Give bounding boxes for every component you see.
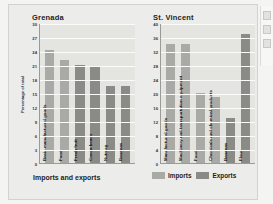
bar-category-label: Flour <box>238 150 243 161</box>
y-tick-label: 18 <box>32 78 37 83</box>
y-tick-label: 3 <box>35 148 37 153</box>
plot-area-st-vincent: 4036322824201612840 Manufactured goodsMa… <box>140 24 257 164</box>
y-tick-label: 20 <box>153 92 158 97</box>
y-tick-label: 40 <box>153 22 158 27</box>
gridline <box>40 122 135 123</box>
bar-category-label: Basic manufactured goods <box>42 105 47 161</box>
gridline <box>40 38 135 39</box>
figure-frame: Grenada Percentage of total 302724211815… <box>8 4 258 200</box>
gridline <box>161 24 255 25</box>
gridline <box>161 136 255 137</box>
y-tick-label: 9 <box>35 120 37 125</box>
y-tick-label: 28 <box>153 64 158 69</box>
y-tick-label: 4 <box>156 148 158 153</box>
gridline <box>161 66 255 67</box>
gridline <box>40 150 135 151</box>
gridline <box>161 150 255 151</box>
panel-footer-st-vincent: Imports Exports <box>140 164 257 194</box>
clipped-row <box>263 11 271 20</box>
gridline <box>161 80 255 81</box>
y-axis-ticks-st-vincent: 4036322824201612840 <box>147 24 159 164</box>
plot-canvas-st-vincent: Manufactured goodsMachinery and transpor… <box>160 24 255 164</box>
y-tick-label: 8 <box>156 134 158 139</box>
bar-category-label: Cocoa beans <box>88 134 93 161</box>
bar-category-label: Food <box>58 150 63 161</box>
gridline <box>40 136 135 137</box>
bar-category-label: Food <box>193 150 198 161</box>
bar[interactable] <box>60 60 69 163</box>
gridline <box>40 94 135 95</box>
y-tick-label: 36 <box>153 36 158 41</box>
plot-canvas-grenada: Basic manufactured goodsFoodFresh fruitC… <box>39 24 135 164</box>
bar-category-label: Manufactured goods <box>163 118 168 161</box>
legend-label-imports: Imports <box>168 172 191 179</box>
legend-swatch-imports-icon <box>152 172 165 179</box>
gridline <box>161 108 255 109</box>
y-tick-label: 6 <box>35 134 37 139</box>
y-tick-label: 21 <box>32 64 37 69</box>
bar-category-label: Machinery and transportation equipment <box>178 76 183 161</box>
gridline <box>161 38 255 39</box>
legend-label-exports: Exports <box>212 172 236 179</box>
plot-area-grenada: Percentage of total 302724211815129630 B… <box>19 24 137 164</box>
bar-category-label: Nutmeg <box>103 145 108 161</box>
legend-swatch-exports-icon <box>196 172 209 179</box>
y-tick-label: 12 <box>153 120 158 125</box>
y-axis-ticks-grenada: 302724211815129630 <box>26 24 38 164</box>
legend-item-exports: Exports <box>196 172 236 179</box>
gridline <box>161 122 255 123</box>
y-tick-label: 24 <box>32 50 37 55</box>
bar-category-label: Bananas <box>223 143 228 161</box>
gridline <box>40 80 135 81</box>
gridline <box>161 94 255 95</box>
gridline <box>40 24 135 25</box>
y-tick-label: 16 <box>153 106 158 111</box>
y-tick-label: 27 <box>32 36 37 41</box>
panel-grenada: Grenada Percentage of total 302724211815… <box>19 11 137 195</box>
bar-category-label: Bananas <box>118 143 123 161</box>
panel-title-grenada: Grenada <box>32 12 137 24</box>
panel-footer-grenada: Imports and exports <box>19 164 137 194</box>
legend-item-imports: Imports <box>152 172 191 179</box>
clipped-row <box>263 39 271 48</box>
chart-screenshot: Grenada Percentage of total 302724211815… <box>0 0 273 204</box>
clipped-row <box>263 25 271 34</box>
y-tick-label: 24 <box>153 78 158 83</box>
gridline <box>40 66 135 67</box>
panel-title-st-vincent: St. Vincent <box>153 12 257 24</box>
panel-st-vincent: St. Vincent 4036322824201612840 Manufact… <box>140 11 257 195</box>
y-axis-title-text: Percentage of total <box>20 76 25 113</box>
gridline <box>161 52 255 53</box>
chart-legend: Imports Exports <box>152 172 236 179</box>
y-tick-label: 12 <box>32 106 37 111</box>
gridline <box>40 52 135 53</box>
y-tick-label: 15 <box>32 92 37 97</box>
x-axis-title-grenada: Imports and exports <box>33 174 100 181</box>
clipped-side-panel <box>260 6 273 66</box>
gridline <box>40 108 135 109</box>
y-tick-label: 30 <box>32 22 37 27</box>
y-tick-label: 32 <box>153 50 158 55</box>
